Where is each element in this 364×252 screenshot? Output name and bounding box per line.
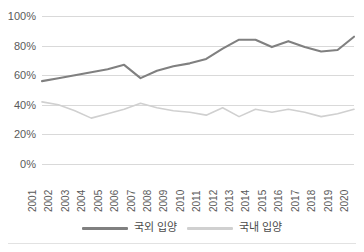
x-axis-tick: 2009 <box>159 190 169 212</box>
x-axis-tick: 2010 <box>176 190 186 212</box>
y-axis-tick: 60% <box>0 70 36 81</box>
footer-divider <box>8 243 356 244</box>
series-layer <box>42 16 354 164</box>
x-axis-tick: 2016 <box>274 190 284 212</box>
x-axis-tick: 2017 <box>291 190 301 212</box>
legend-label-domestic: 국내 입양 <box>239 222 283 234</box>
plot-area <box>42 16 354 164</box>
x-axis-tick: 2003 <box>61 190 71 212</box>
x-axis-tick: 2004 <box>77 190 87 212</box>
series-line-domestic <box>42 102 354 118</box>
x-axis-tick: 2001 <box>28 190 38 212</box>
chart-legend: 국외 입양 국내 입양 <box>0 218 364 238</box>
y-axis-tick: 80% <box>0 41 36 52</box>
x-axis-tick: 2013 <box>225 190 235 212</box>
x-axis-tick: 2007 <box>127 190 137 212</box>
y-axis-tick: 20% <box>0 129 36 140</box>
legend-line-swatch-domestic <box>187 227 233 230</box>
x-axis-tick: 2005 <box>94 190 104 212</box>
x-axis-tick: 2011 <box>192 190 202 212</box>
gridline <box>42 164 354 165</box>
x-axis-tick-labels: 2001200220032004200520062007200820092010… <box>42 166 354 214</box>
adoption-rate-line-chart: 0%20%40%60%80%100% 200120022003200420052… <box>0 0 364 252</box>
y-axis-tick: 100% <box>0 11 36 22</box>
x-axis-tick: 2018 <box>307 190 317 212</box>
y-axis-tick: 40% <box>0 100 36 111</box>
x-axis-tick: 2002 <box>44 190 54 212</box>
legend-item-overseas[interactable]: 국외 입양 <box>82 222 178 234</box>
legend-label-overseas: 국외 입양 <box>134 222 178 234</box>
series-line-overseas <box>42 37 354 81</box>
x-axis-tick: 2014 <box>241 190 251 212</box>
legend-item-domestic[interactable]: 국내 입양 <box>187 222 283 234</box>
x-axis-tick: 2020 <box>340 190 350 212</box>
x-axis-tick: 2006 <box>110 190 120 212</box>
x-axis-tick: 2012 <box>209 190 219 212</box>
x-axis-tick: 2015 <box>258 190 268 212</box>
legend-line-swatch-overseas <box>82 227 128 230</box>
x-axis-tick: 2008 <box>143 190 153 212</box>
x-axis-tick: 2019 <box>324 190 334 212</box>
y-axis-tick: 0% <box>0 159 36 170</box>
